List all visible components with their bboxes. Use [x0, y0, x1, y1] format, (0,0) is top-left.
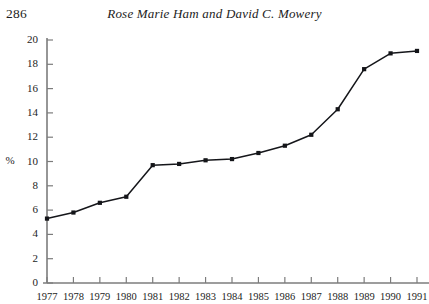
x-tick-label: 1978: [63, 291, 84, 302]
data-point: [283, 144, 287, 148]
y-tick-label: 12: [27, 130, 38, 142]
data-point: [309, 133, 313, 137]
x-tick-label: 1985: [248, 291, 269, 302]
x-tick-label: 1979: [89, 291, 110, 302]
data-point: [71, 210, 75, 214]
data-point: [98, 201, 102, 205]
x-tick-label: 1987: [301, 291, 322, 302]
chart-canvas: 02468101214161820 1977197819791980198119…: [0, 30, 429, 304]
y-axis-label: %: [5, 154, 14, 166]
data-point: [177, 162, 181, 166]
x-tick-label: 1983: [195, 291, 216, 302]
y-tick-labels: 02468101214161820: [27, 33, 39, 288]
x-tick-label: 1990: [380, 291, 401, 302]
x-tick-label: 1989: [354, 291, 375, 302]
y-tick-label: 18: [27, 57, 39, 69]
y-tick-label: 10: [27, 155, 39, 167]
y-tick-group: [47, 40, 53, 283]
y-tick-label: 6: [33, 203, 39, 215]
x-tick-label: 1982: [169, 291, 190, 302]
x-tick-label: 1986: [274, 291, 295, 302]
data-point: [203, 158, 207, 162]
y-tick-label: 16: [27, 82, 39, 94]
running-head: Rose Marie Ham and David C. Mowery: [0, 6, 429, 22]
line-chart: 02468101214161820 1977197819791980198119…: [0, 30, 429, 304]
data-series: [47, 51, 417, 219]
figure-page: 286 Rose Marie Ham and David C. Mowery 0…: [0, 0, 429, 304]
x-tick-label: 1977: [37, 291, 58, 302]
y-tick-label: 4: [33, 227, 39, 239]
x-tick-label: 1988: [327, 291, 348, 302]
data-point: [362, 67, 366, 71]
x-tick-group: [47, 277, 417, 283]
data-markers: [45, 49, 419, 221]
x-tick-label: 1981: [142, 291, 163, 302]
x-tick-label: 1991: [407, 291, 428, 302]
series-polyline: [47, 51, 417, 219]
x-tick-label: 1980: [116, 291, 137, 302]
y-tick-label: 2: [33, 252, 39, 264]
data-point: [415, 49, 419, 53]
x-tick-labels: 1977197819791980198119821983198419851986…: [37, 291, 428, 302]
y-tick-label: 0: [33, 276, 39, 288]
data-point: [124, 195, 128, 199]
data-point: [45, 217, 49, 221]
y-tick-label: 8: [33, 179, 39, 191]
y-axis-title: %: [5, 154, 14, 166]
data-point: [256, 151, 260, 155]
data-point: [336, 107, 340, 111]
y-tick-label: 14: [27, 106, 39, 118]
data-point: [151, 163, 155, 167]
data-point: [230, 157, 234, 161]
data-point: [388, 51, 392, 55]
y-tick-label: 20: [27, 33, 39, 45]
x-tick-label: 1984: [222, 291, 244, 302]
